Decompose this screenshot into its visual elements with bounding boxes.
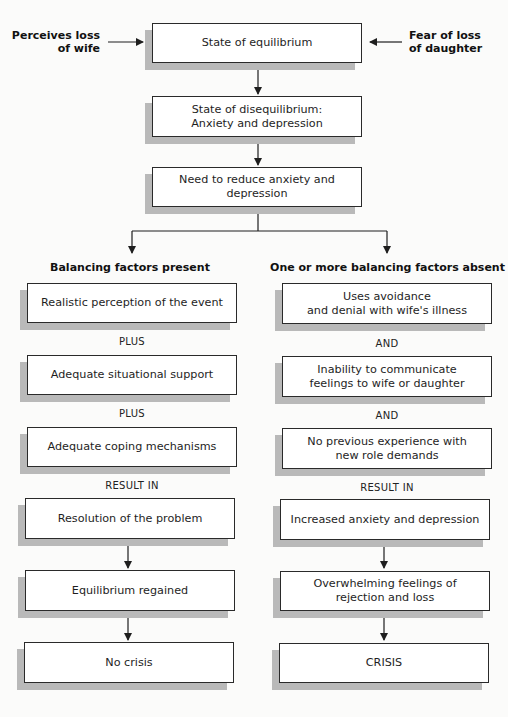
box-increased-anxiety-and-depression: Increased anxiety and depression (280, 499, 490, 540)
box-realistic-perception: Realistic perception of the event (27, 283, 237, 323)
box-need-to-reduce-anxiety: Need to reduce anxiety and depression (152, 167, 362, 207)
result-in-label: RESULT IN (282, 482, 492, 493)
box-inability-to-communicate: Inability to communicate feelings to wif… (282, 356, 492, 397)
connector-label-and: AND (282, 338, 492, 349)
box-no-previous-experience: No previous experience with new role dem… (282, 428, 492, 469)
box-crisis: CRISIS (279, 643, 489, 683)
connector-label-plus: PLUS (27, 408, 237, 419)
box-uses-avoidance-and-denial: Uses avoidance and denial with wife's il… (282, 283, 492, 324)
connector-label-and: AND (282, 410, 492, 421)
result-in-label: RESULT IN (27, 480, 237, 491)
box-adequate-situational-support: Adequate situational support (27, 355, 237, 395)
input-fear-of-loss-of-daughter: Fear of loss of daughter (409, 29, 482, 55)
box-resolution-of-problem: Resolution of the problem (25, 498, 235, 539)
box-state-of-disequilibrium: State of disequilibrium: Anxiety and dep… (152, 96, 362, 137)
input-perceives-loss-of-wife: Perceives loss of wife (4, 29, 100, 55)
box-overwhelming-feelings: Overwhelming feelings of rejection and l… (280, 571, 490, 611)
box-equilibrium-regained: Equilibrium regained (25, 570, 235, 611)
box-adequate-coping-mechanisms: Adequate coping mechanisms (27, 427, 237, 467)
box-no-crisis: No crisis (24, 642, 234, 683)
box-state-of-equilibrium: State of equilibrium (152, 23, 362, 63)
heading-balancing-factors-present: Balancing factors present (20, 261, 240, 274)
heading-balancing-factors-absent: One or more balancing factors absent (270, 261, 505, 274)
connector-label-plus: PLUS (27, 336, 237, 347)
